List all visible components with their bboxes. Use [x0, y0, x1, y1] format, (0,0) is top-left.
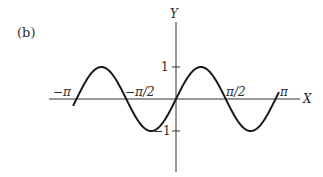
x-tick-label-neg-half-pi: −π/2	[125, 86, 155, 98]
x-tick-label-neg-pi: −π	[53, 86, 71, 98]
y-tick-label-neg1: −1	[153, 125, 171, 137]
x-tick-label-half-pi: π/2	[226, 86, 246, 98]
panel-label: (b)	[17, 26, 35, 39]
sine-chart	[0, 0, 323, 177]
x-axis-label: X	[303, 93, 312, 105]
y-tick-label-1: 1	[161, 61, 169, 73]
y-axis-label: Y	[170, 8, 178, 20]
x-tick-label-pi: π	[280, 86, 288, 98]
